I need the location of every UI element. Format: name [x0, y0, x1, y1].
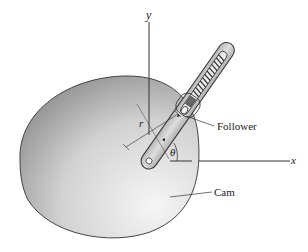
cam-follower-diagram: y x	[0, 0, 308, 252]
radius-label: r	[139, 117, 144, 129]
y-axis-label: y	[145, 8, 152, 22]
follower-label: Follower	[217, 120, 257, 132]
theta-label: θ	[170, 146, 176, 158]
x-axis-label: x	[290, 154, 296, 166]
cam-label: Cam	[214, 186, 235, 198]
